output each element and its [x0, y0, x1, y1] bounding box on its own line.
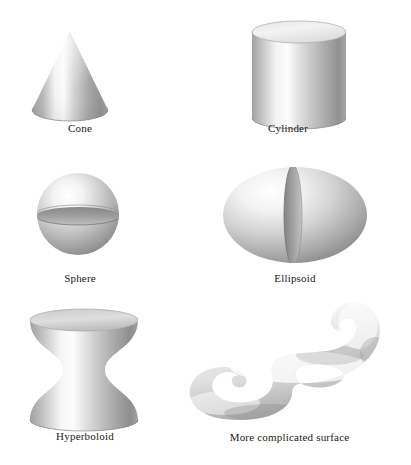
- cone-body-highlight: [32, 32, 108, 121]
- caption-sphere: Sphere: [0, 272, 160, 284]
- complicated-surface-illustration: [180, 295, 395, 435]
- caption-ellipsoid: Ellipsoid: [195, 272, 395, 284]
- caption-cone: Cone: [0, 122, 160, 134]
- hyperboloid-illustration: [0, 300, 170, 435]
- shape-cell-cone: Cone: [0, 0, 160, 150]
- quadric-surfaces-figure: Cone: [0, 0, 411, 465]
- shape-cell-complicated-surface: More complicated surface: [180, 295, 405, 465]
- sphere-illustration: [0, 150, 160, 280]
- cylinder-top-ellipse: [252, 21, 346, 43]
- shape-cell-sphere: Sphere: [0, 150, 160, 300]
- cylinder-body: [252, 32, 346, 129]
- caption-hyperboloid: Hyperboloid: [0, 430, 170, 442]
- ellipsoid-seam: [284, 165, 302, 265]
- shape-cell-ellipsoid: Ellipsoid: [200, 150, 400, 300]
- hyperboloid-body: [30, 320, 138, 431]
- ellipsoid-illustration: [200, 150, 400, 280]
- shape-cell-cylinder: Cylinder: [220, 0, 380, 150]
- cone-illustration: [0, 0, 160, 130]
- caption-complicated-surface: More complicated surface: [177, 431, 402, 443]
- shape-cell-hyperboloid: Hyperboloid: [0, 300, 170, 465]
- caption-cylinder: Cylinder: [208, 122, 368, 134]
- complicated-surface-shading: [180, 295, 395, 435]
- cylinder-illustration: [220, 0, 390, 140]
- hyperboloid-top-ellipse: [30, 309, 138, 331]
